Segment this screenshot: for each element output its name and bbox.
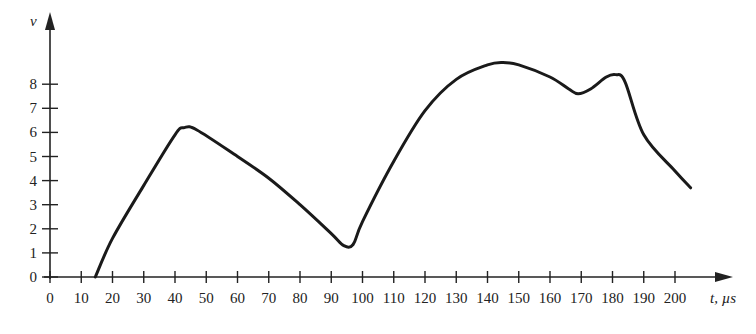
x-tick-label: 60 bbox=[230, 290, 245, 306]
y-tick-label: 4 bbox=[30, 173, 38, 189]
x-tick-label: 170 bbox=[570, 290, 593, 306]
x-tick-label: 130 bbox=[445, 290, 468, 306]
y-tick-label: 8 bbox=[30, 76, 38, 92]
x-tick-label: 70 bbox=[261, 290, 276, 306]
y-tick-label: 7 bbox=[30, 100, 38, 116]
x-tick-label: 190 bbox=[633, 290, 656, 306]
x-tick-label: 150 bbox=[508, 290, 531, 306]
x-tick-label: 80 bbox=[293, 290, 308, 306]
x-tick-label: 50 bbox=[199, 290, 214, 306]
series-line bbox=[95, 62, 690, 277]
y-tick-label: 6 bbox=[30, 124, 38, 140]
x-tick-label: 120 bbox=[414, 290, 437, 306]
line-chart: 0102030405060708090100110120130140150160… bbox=[0, 0, 756, 334]
y-tick-label: 3 bbox=[30, 197, 38, 213]
y-tick-label: 2 bbox=[30, 221, 38, 237]
y-tick-label: 0 bbox=[30, 269, 38, 285]
axes bbox=[44, 12, 733, 282]
x-tick-label: 20 bbox=[105, 290, 120, 306]
x-axis-arrow-icon bbox=[715, 272, 733, 282]
x-axis-title: t, µs bbox=[710, 290, 736, 306]
x-tick-label: 0 bbox=[46, 290, 54, 306]
x-tick-label: 180 bbox=[601, 290, 624, 306]
y-axis-title: v bbox=[30, 13, 37, 29]
x-tick-label: 40 bbox=[168, 290, 183, 306]
y-ticks: 012345678 bbox=[30, 76, 59, 285]
x-tick-label: 10 bbox=[74, 290, 89, 306]
x-tick-label: 90 bbox=[324, 290, 339, 306]
x-tick-label: 200 bbox=[664, 290, 687, 306]
x-tick-label: 100 bbox=[351, 290, 374, 306]
x-tick-label: 160 bbox=[539, 290, 562, 306]
x-tick-label: 140 bbox=[476, 290, 499, 306]
y-tick-label: 5 bbox=[30, 149, 38, 165]
y-tick-label: 1 bbox=[30, 245, 38, 261]
y-axis-arrow-icon bbox=[45, 12, 55, 30]
x-tick-label: 30 bbox=[136, 290, 151, 306]
x-tick-label: 110 bbox=[383, 290, 405, 306]
